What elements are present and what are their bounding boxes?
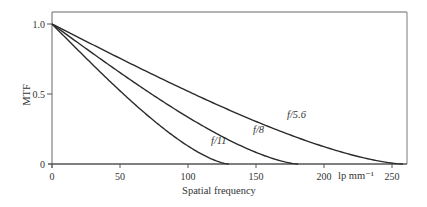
x-tick-label: 100: [181, 171, 196, 182]
plot-frame: [48, 12, 407, 168]
x-axis-title: Spatial frequency: [182, 185, 257, 196]
x-tick-label: 0: [50, 171, 55, 182]
curve-label-f5-6: f/5.6: [287, 109, 307, 120]
x-tick-label: 250: [385, 171, 400, 182]
x-tick-label: 200: [317, 171, 332, 182]
curve-label-f8: f/8: [253, 124, 265, 135]
y-tick-label: 0: [40, 159, 45, 170]
curve-label-f11: f/11: [211, 135, 227, 146]
mtf-chart: 05010015020025000.51.0 f/5.6f/8f/11 MTF …: [0, 0, 427, 207]
x-tick-label: 50: [115, 171, 125, 182]
curve-f5-6: [52, 24, 403, 164]
curves: f/5.6f/8f/11: [52, 24, 403, 164]
y-tick-label: 1.0: [33, 19, 46, 30]
x-axis-unit-label: lp mm⁻¹: [338, 170, 374, 181]
x-tick-label: 150: [249, 171, 264, 182]
y-axis-title: MTF: [21, 84, 32, 106]
curve-f8: [52, 24, 298, 164]
y-tick-label: 0.5: [33, 89, 46, 100]
curve-f11: [52, 24, 229, 164]
axis-ticks: 05010015020025000.51.0: [33, 19, 400, 183]
